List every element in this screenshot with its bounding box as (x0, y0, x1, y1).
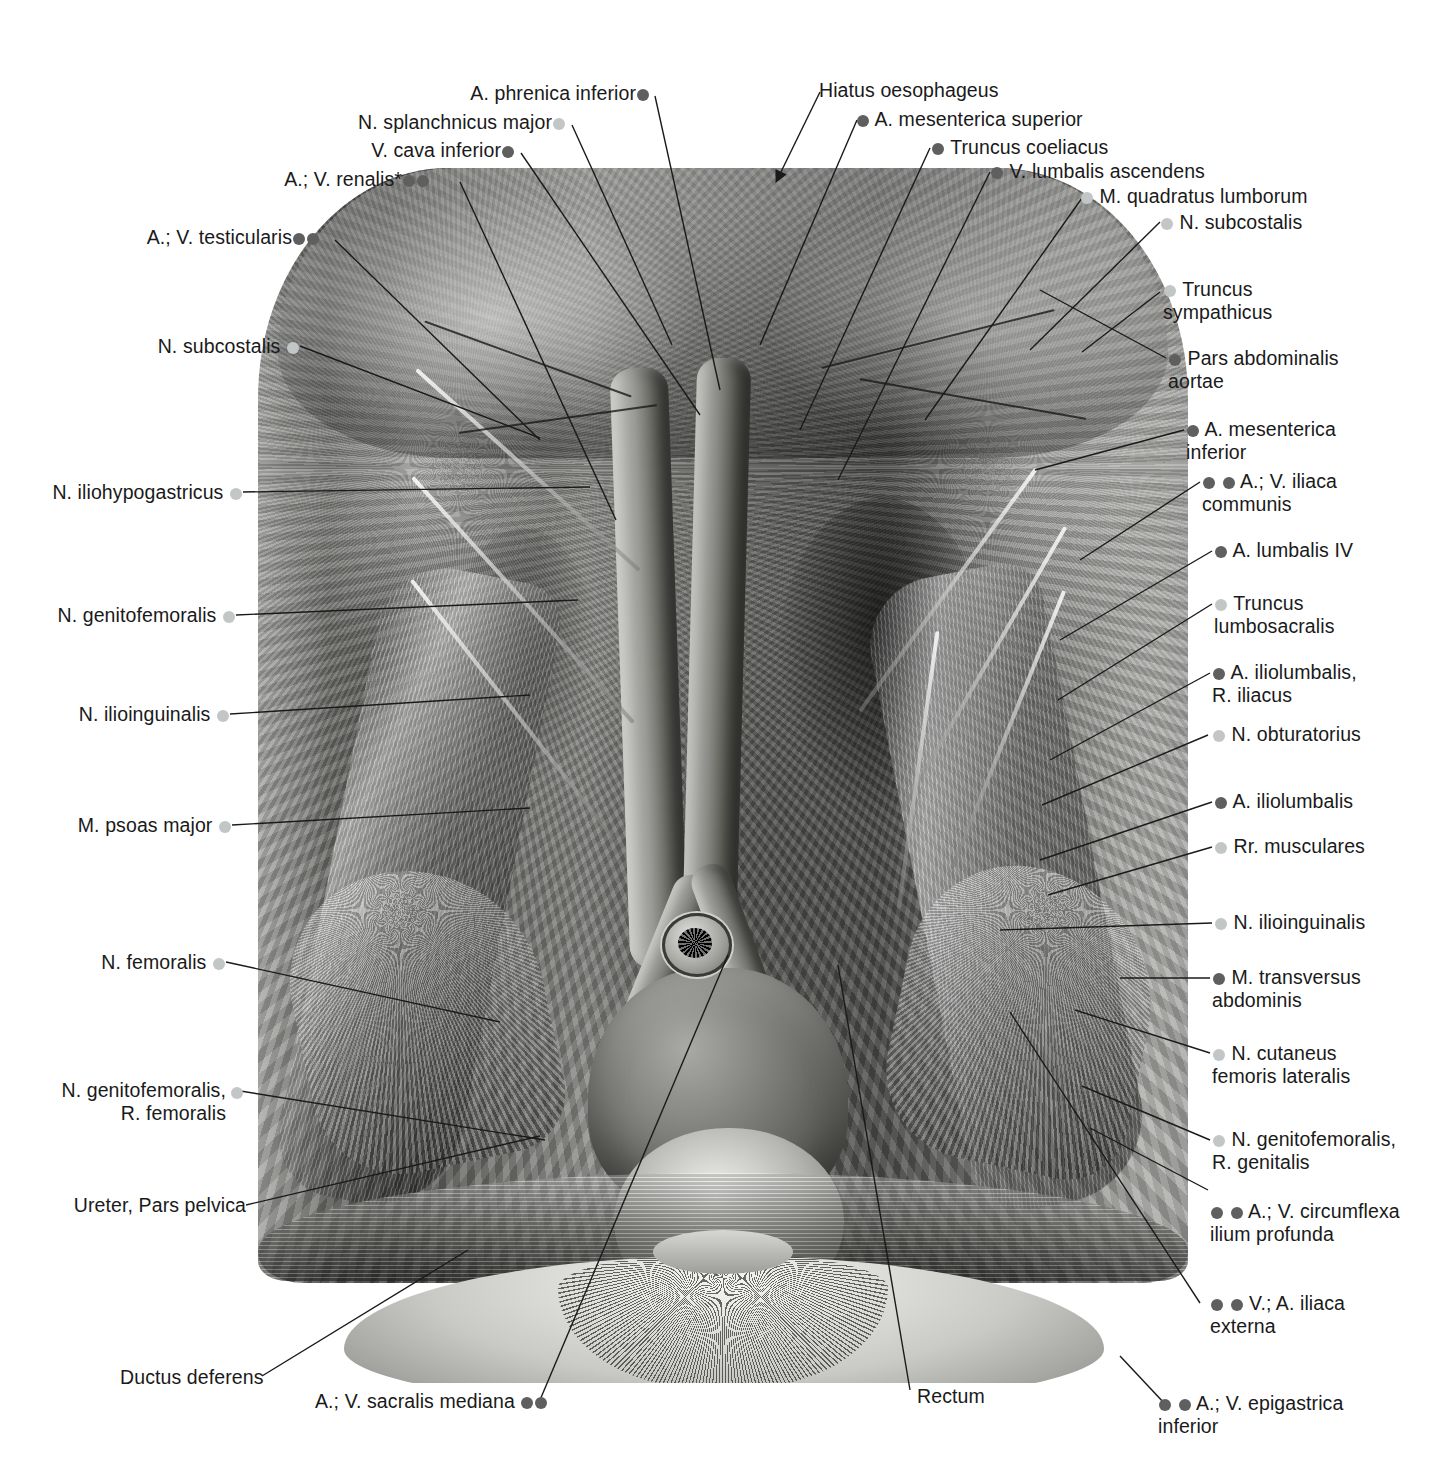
vessel-dot-icon (502, 146, 514, 158)
label-v-lumbalis-ascendens[interactable]: V. lumbalis ascendens (990, 160, 1205, 183)
label-a-iliolumbalis[interactable]: A. iliolumbalis (1214, 790, 1353, 813)
vessel-dot-icon (1231, 1299, 1243, 1311)
label-m-quadratus-lumborum[interactable]: M. quadratus lumborum (1080, 185, 1308, 208)
vessel-dot-icon (1231, 1207, 1243, 1219)
nerve-dot-icon (553, 118, 565, 130)
label-rectum[interactable]: Rectum (917, 1385, 985, 1408)
label-a-phrenica-inferior[interactable]: A. phrenica inferior (180, 82, 650, 105)
vessel-dot-icon (1203, 477, 1215, 489)
label-rr-musculares[interactable]: Rr. musculares (1214, 835, 1365, 858)
vessel-dot-icon (403, 175, 415, 187)
label-a-mesenterica-inferior[interactable]: A. mesenterica inferior (1186, 418, 1336, 464)
nerve-dot-icon (1215, 599, 1227, 611)
label-a-v-epigastrica-inferior[interactable]: A.; V. epigastrica inferior (1158, 1392, 1343, 1438)
vessel-dot-icon (1169, 354, 1181, 366)
vessel-dot-icon (857, 115, 869, 127)
vessel-dot-icon (1179, 1399, 1191, 1411)
vessel-dot-icon (1187, 425, 1199, 437)
vessel-dot-icon (1213, 973, 1225, 985)
label-a-v-sacralis-mediana[interactable]: A.; V. sacralis mediana (315, 1390, 548, 1413)
label-n-genitofemoralis-r-genitalis[interactable]: N. genitofemoralis, R. genitalis (1212, 1128, 1396, 1174)
vessel-dot-icon (535, 1397, 547, 1409)
vessel-dot-icon (1213, 668, 1225, 680)
nerve-dot-icon (1213, 1049, 1225, 1061)
label-a-v-iliaca-communis[interactable]: A.; V. iliaca communis (1202, 470, 1337, 516)
nerve-dot-icon (1215, 842, 1227, 854)
label-n-ilioinguinalis-right[interactable]: N. ilioinguinalis (1214, 911, 1365, 934)
label-a-v-circumflexa-ilium-profunda[interactable]: A.; V. circumflexa ilium profunda (1210, 1200, 1400, 1246)
label-n-ilioinguinalis-left[interactable]: N. ilioinguinalis (20, 703, 230, 726)
bowel-stump (662, 913, 732, 977)
vessel-dot-icon (1159, 1399, 1171, 1411)
label-n-iliohypogastricus[interactable]: N. iliohypogastricus (20, 481, 243, 504)
label-n-genitofemoralis-r-femoralis[interactable]: N. genitofemoralis, R. femoralis (10, 1079, 226, 1125)
label-v-cava-inferior[interactable]: V. cava inferior (180, 139, 515, 162)
vessel-dot-icon (521, 1397, 533, 1409)
label-a-mesenterica-superior[interactable]: A. mesenterica superior (856, 108, 1083, 131)
label-n-splanchnicus-major[interactable]: N. splanchnicus major (180, 111, 566, 134)
label-a-iliolumbalis-r-iliacus[interactable]: A. iliolumbalis, R. iliacus (1212, 661, 1357, 707)
anatomical-plate: A. phrenica inferior N. splanchnicus maj… (0, 0, 1444, 1475)
label-n-subcostalis-right[interactable]: N. subcostalis (1160, 211, 1302, 234)
label-ureter-pars-pelvica[interactable]: Ureter, Pars pelvica (20, 1194, 246, 1217)
label-n-obturatorius[interactable]: N. obturatorius (1212, 723, 1361, 746)
label-a-lumbalis-iv[interactable]: A. lumbalis IV (1214, 539, 1353, 562)
nerve-dot-icon (1164, 285, 1176, 297)
vessel-dot-icon (1215, 546, 1227, 558)
label-n-genitofemoralis[interactable]: N. genitofemoralis (20, 604, 236, 627)
label-n-femoralis[interactable]: N. femoralis (20, 951, 226, 974)
vessel-dot-icon (293, 233, 305, 245)
label-m-transversus-abdominis[interactable]: M. transversus abdominis (1212, 966, 1361, 1012)
label-truncus-coeliacus[interactable]: Truncus coeliacus (931, 136, 1108, 159)
label-a-v-testicularis[interactable]: A.; V. testicularis (20, 226, 320, 249)
nerve-dot-icon (1161, 218, 1173, 230)
nerve-dot-icon (1213, 730, 1225, 742)
anatomy-illustration (258, 168, 1188, 1383)
vessel-dot-icon (307, 233, 319, 245)
vessel-dot-icon (637, 89, 649, 101)
label-n-cutaneus-femoris-lateralis[interactable]: N. cutaneus femoris lateralis (1212, 1042, 1350, 1088)
label-truncus-lumbosacralis[interactable]: Truncus lumbosacralis (1214, 592, 1335, 638)
label-v-a-iliaca-externa[interactable]: V.; A. iliaca externa (1210, 1292, 1345, 1338)
vessel-dot-icon (932, 143, 944, 155)
penis-root (653, 1230, 793, 1274)
label-a-v-renalis[interactable]: A.; V. renalis* (140, 168, 430, 191)
label-ductus-deferens[interactable]: Ductus deferens (120, 1366, 264, 1389)
nerve-dot-icon (217, 710, 229, 722)
nerve-dot-icon (230, 488, 242, 500)
nerve-dot-icon (1213, 1135, 1225, 1147)
vessel-dot-icon (1211, 1299, 1223, 1311)
vessel-dot-icon (1223, 477, 1235, 489)
nerve-dot-icon (1081, 192, 1093, 204)
label-n-subcostalis-left[interactable]: N. subcostalis (20, 335, 300, 358)
nerve-dot-icon (1215, 918, 1227, 930)
label-m-psoas-major[interactable]: M. psoas major (20, 814, 232, 837)
nerve-dot-icon (213, 958, 225, 970)
label-pars-abdominalis-aortae[interactable]: Pars abdominalis aortae (1168, 347, 1339, 393)
vessel-dot-icon (1215, 797, 1227, 809)
label-truncus-sympathicus[interactable]: Truncus sympathicus (1163, 278, 1272, 324)
nerve-dot-icon (231, 1087, 243, 1099)
nerve-dot-icon (287, 342, 299, 354)
nerve-dot-icon (223, 611, 235, 623)
label-hiatus-oesophageus[interactable]: Hiatus oesophageus (819, 79, 999, 102)
vessel-dot-icon (417, 175, 429, 187)
vessel-dot-icon (1211, 1207, 1223, 1219)
vessel-dot-icon (991, 167, 1003, 179)
nerve-dot-icon (219, 821, 231, 833)
